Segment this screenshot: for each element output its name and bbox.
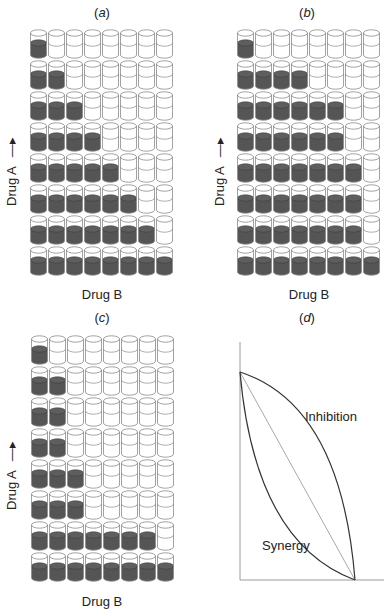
cylinder-empty	[121, 154, 137, 182]
cylinder-filled	[32, 429, 48, 457]
cylinder-empty	[122, 491, 138, 519]
cylinder-filled	[50, 398, 66, 426]
cylinder-filled	[256, 61, 272, 89]
inhibition-label: Inhibition	[305, 409, 357, 424]
arrow-up-icon: —▸	[4, 441, 19, 461]
cylinder-empty	[310, 30, 326, 58]
cylinder-filled	[49, 61, 65, 89]
cylinder-empty	[139, 30, 155, 58]
cylinder-filled	[32, 553, 48, 581]
cylinder-filled	[32, 522, 48, 550]
drug-b-axis-label: Drug B	[269, 287, 349, 302]
cylinder-empty	[86, 460, 102, 488]
cylinder-filled	[274, 61, 290, 89]
cylinder-empty	[157, 154, 173, 182]
cylinder-filled	[31, 154, 47, 182]
cylinder-filled	[292, 92, 308, 120]
cylinder-filled	[238, 123, 254, 151]
cylinder-filled	[328, 185, 344, 213]
cylinder-filled	[31, 123, 47, 151]
cylinder-filled	[50, 522, 66, 550]
cylinder-filled	[122, 522, 138, 550]
cylinder-grid-a	[29, 29, 175, 281]
cylinder-filled	[328, 216, 344, 244]
cylinder-filled	[256, 185, 272, 213]
cylinder-empty	[140, 460, 156, 488]
cylinder-filled	[67, 92, 83, 120]
cylinder-empty	[364, 216, 380, 244]
drug-b-axis-label: Drug B	[62, 594, 142, 609]
cylinder-filled	[364, 247, 380, 275]
panel-letter: a	[98, 5, 105, 20]
panel-b: (b) Drug A —▸ Drug B	[195, 0, 390, 305]
cylinder-filled	[256, 123, 272, 151]
cylinder-empty	[364, 92, 380, 120]
cylinder-empty	[86, 367, 102, 395]
cylinder-empty	[158, 460, 174, 488]
cylinder-filled	[68, 460, 84, 488]
cylinder-filled	[121, 185, 137, 213]
cylinder-empty	[328, 30, 344, 58]
cylinder-filled	[139, 247, 155, 275]
cylinder-empty	[140, 336, 156, 364]
cylinder-empty	[157, 123, 173, 151]
cylinder-empty	[85, 61, 101, 89]
synergy-label: Synergy	[262, 538, 310, 553]
cylinder-filled	[292, 123, 308, 151]
cylinder-filled	[158, 553, 174, 581]
panel-a: (a) Drug A —▸ Drug B	[0, 0, 195, 305]
cylinder-filled	[50, 460, 66, 488]
cylinder-filled	[292, 216, 308, 244]
cylinder-empty	[104, 460, 120, 488]
cylinder-filled	[50, 429, 66, 457]
cylinder-filled	[346, 154, 362, 182]
cylinder-empty	[86, 398, 102, 426]
cylinder-filled	[274, 154, 290, 182]
cylinder-empty	[122, 460, 138, 488]
cylinder-filled	[50, 491, 66, 519]
cylinder-empty	[292, 30, 308, 58]
cylinder-empty	[140, 367, 156, 395]
cylinder-empty	[104, 398, 120, 426]
panel-d: (d) Inhibition Synergy	[195, 305, 390, 616]
cylinder-filled	[292, 247, 308, 275]
cylinder-filled	[85, 185, 101, 213]
cylinder-filled	[31, 185, 47, 213]
cylinder-filled	[256, 92, 272, 120]
cylinder-empty	[86, 336, 102, 364]
cylinder-empty	[103, 30, 119, 58]
cylinder-filled	[104, 522, 120, 550]
cylinder-filled	[346, 185, 362, 213]
cylinder-empty	[122, 367, 138, 395]
cylinder-filled	[32, 336, 48, 364]
cylinder-filled	[104, 553, 120, 581]
cylinder-empty	[140, 398, 156, 426]
cylinder-empty	[121, 30, 137, 58]
panel-c: (c) Drug A —▸ Drug B	[0, 305, 195, 616]
cylinder-empty	[346, 30, 362, 58]
cylinder-filled	[238, 185, 254, 213]
cylinder-empty	[68, 336, 84, 364]
cylinder-empty	[346, 123, 362, 151]
cylinder-filled	[32, 398, 48, 426]
drug-a-text: Drug A	[4, 167, 19, 206]
cylinder-filled	[274, 123, 290, 151]
cylinder-filled	[310, 154, 326, 182]
cylinder-filled	[85, 154, 101, 182]
cylinder-filled	[292, 154, 308, 182]
cylinder-empty	[364, 61, 380, 89]
cylinder-empty	[158, 398, 174, 426]
paren-close: )	[311, 5, 315, 20]
cylinder-filled	[103, 216, 119, 244]
cylinder-filled	[67, 247, 83, 275]
cylinder-empty	[86, 429, 102, 457]
cylinder-filled	[121, 247, 137, 275]
cylinder-filled	[292, 185, 308, 213]
cylinder-empty	[122, 398, 138, 426]
cylinder-filled	[274, 216, 290, 244]
isobologram-plot	[195, 305, 390, 616]
cylinder-filled	[86, 553, 102, 581]
cylinder-empty	[157, 30, 173, 58]
cylinder-grid-c	[30, 335, 176, 587]
cylinder-filled	[274, 92, 290, 120]
